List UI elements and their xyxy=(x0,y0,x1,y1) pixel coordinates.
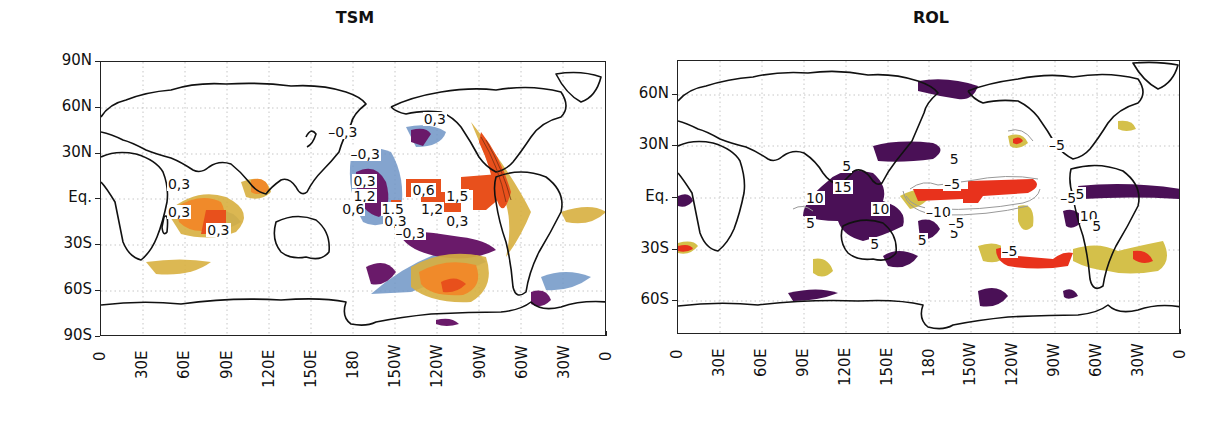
contour-label: 15 xyxy=(833,180,853,194)
tsm-title: TSM xyxy=(300,8,410,27)
rol-panel: ROL 60N30NEq.30S60S 030E60E90E120E150E18… xyxy=(614,0,1228,432)
contour-label: 5 xyxy=(805,216,816,230)
x-tick-label: 120W xyxy=(429,345,445,388)
x-tick-label: 120E xyxy=(837,348,853,386)
contour-label: 0,3 xyxy=(352,174,376,188)
y-tick-label: 90N xyxy=(42,52,92,68)
x-tick-label: 180 xyxy=(345,350,361,379)
x-tick-label: 150E xyxy=(303,350,319,388)
x-tick-mark xyxy=(606,331,607,336)
rol-map: 515101055555–5–10–5–5–55105–5 xyxy=(677,60,1180,334)
y-tick-label: 60N xyxy=(619,85,669,101)
contour-label: 5 xyxy=(949,152,960,166)
contour-label: 5 xyxy=(869,237,880,251)
x-tick-label: 30E xyxy=(134,350,150,379)
contour-label: 5 xyxy=(1091,219,1102,233)
contour-label: 10 xyxy=(871,202,891,216)
contour-label: 1,2 xyxy=(420,202,444,216)
rol-map-graphic xyxy=(678,61,1180,334)
x-tick-label: 90W xyxy=(1046,343,1062,377)
contour-label: 0,3 xyxy=(445,214,469,228)
rol-title: ROL xyxy=(876,8,986,27)
contour-label: 5 xyxy=(841,159,852,173)
x-tick-label: 0 xyxy=(92,351,108,361)
x-tick-label: 60E xyxy=(176,350,192,379)
contour-label: –5 xyxy=(947,216,965,230)
contour-label: 0,3 xyxy=(423,112,447,126)
contour-label: 5 xyxy=(1075,187,1086,201)
x-tick-label: 150E xyxy=(879,348,895,386)
contour-label: 0,6 xyxy=(341,202,365,216)
contour-label: 0,3 xyxy=(167,205,191,219)
x-tick-label: 90W xyxy=(472,345,488,379)
x-tick-label: 60E xyxy=(753,348,769,377)
x-tick-label: 150W xyxy=(962,343,978,386)
x-tick-label: 120E xyxy=(261,350,277,388)
x-tick-mark xyxy=(1180,329,1181,334)
x-tick-label: 0 xyxy=(1172,349,1188,359)
x-tick-label: 90E xyxy=(219,350,235,379)
tsm-panel: TSM 90N60N30NEq.30S60S90S 030E60E90E120E… xyxy=(0,0,614,432)
contour-label: –0,3 xyxy=(350,147,381,161)
contour-label: –0,3 xyxy=(395,226,426,240)
contour-label: –5 xyxy=(1001,244,1019,258)
tsm-map: 0,3–0,3–0,30,31,20,61,50,3–0,30,61,51,20… xyxy=(100,61,606,336)
contour-label: –0,3 xyxy=(327,125,358,139)
contour-label: 1,5 xyxy=(445,189,469,203)
contour-label: 0,3 xyxy=(167,177,191,191)
x-tick-label: 60W xyxy=(1088,343,1104,377)
x-tick-label: 120W xyxy=(1004,343,1020,386)
x-tick-label: 30E xyxy=(711,348,727,377)
y-tick-label: Eq. xyxy=(42,189,92,205)
y-tick-mark xyxy=(95,336,100,337)
y-tick-label: 90S xyxy=(42,327,92,343)
x-tick-label: 30W xyxy=(556,345,572,379)
y-tick-label: 60S xyxy=(619,291,669,307)
y-tick-label: 30S xyxy=(619,240,669,256)
contour-label: 10 xyxy=(805,191,825,205)
x-tick-label: 0 xyxy=(669,349,685,359)
contour-label: 0,6 xyxy=(411,183,435,197)
y-tick-label: 30N xyxy=(42,144,92,160)
y-tick-label: 30S xyxy=(42,235,92,251)
x-tick-label: 0 xyxy=(598,351,614,361)
contour-label: 5 xyxy=(917,233,928,247)
x-tick-label: 150W xyxy=(387,345,403,388)
contour-label: 0,3 xyxy=(206,223,230,237)
y-tick-label: 30N xyxy=(619,136,669,152)
y-tick-label: Eq. xyxy=(619,188,669,204)
x-tick-label: 30W xyxy=(1130,343,1146,377)
contour-label: –5 xyxy=(1048,138,1066,152)
y-tick-label: 60N xyxy=(42,98,92,114)
contour-label: –5 xyxy=(943,177,961,191)
x-tick-label: 60W xyxy=(514,345,530,379)
y-tick-label: 60S xyxy=(42,281,92,297)
x-tick-label: 90E xyxy=(795,348,811,377)
x-tick-label: 180 xyxy=(921,348,937,377)
